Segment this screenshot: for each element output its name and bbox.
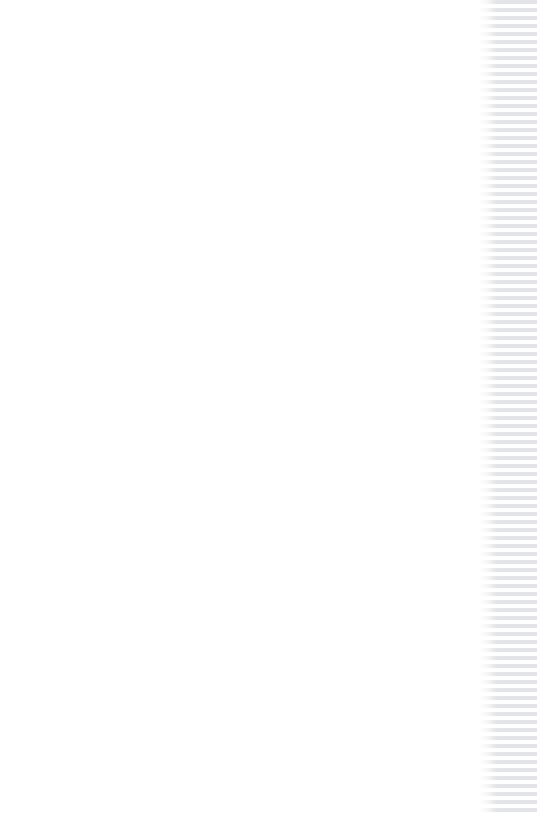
page-body-text xyxy=(0,0,478,813)
stripe-track-thumb[interactable] xyxy=(478,0,537,813)
document-page-canvas xyxy=(0,0,478,813)
striped-edge-strip[interactable] xyxy=(478,0,537,813)
page-surface xyxy=(0,0,478,813)
app-root xyxy=(0,0,537,813)
